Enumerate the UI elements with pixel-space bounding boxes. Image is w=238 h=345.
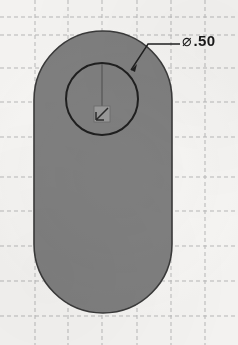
obround-slot-body[interactable] [34,31,172,313]
cad-sketch-canvas: ⌀.50 [0,0,238,345]
hole-diameter-label[interactable]: ⌀.50 [182,33,215,49]
drawing-svg [0,0,238,345]
sketch-origin[interactable] [94,106,110,122]
hole-diameter-value: .50 [193,32,215,49]
diameter-symbol-icon: ⌀ [182,32,193,49]
